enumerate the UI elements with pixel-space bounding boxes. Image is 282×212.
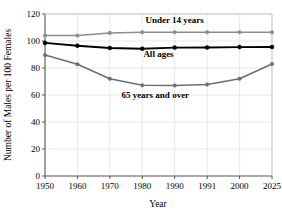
- data-point: [43, 34, 47, 38]
- y-axis-tick-label: 20: [31, 144, 41, 154]
- x-axis-tick-label: 1991: [198, 181, 216, 191]
- x-axis-tick-labels: 19501960197019801990199120002025: [36, 181, 282, 191]
- y-axis-tick-label: 120: [27, 9, 41, 19]
- x-axis-tick-label: 1990: [166, 181, 185, 191]
- x-axis-tick-label: 1980: [133, 181, 152, 191]
- series-under-14-years: [43, 30, 274, 37]
- x-axis-title: Year: [149, 199, 167, 209]
- y-axis-tick-labels: 020406080100120: [27, 9, 41, 181]
- x-axis-tick-label: 1960: [68, 181, 87, 191]
- data-point: [108, 46, 112, 50]
- data-point: [75, 44, 79, 48]
- x-axis-tick-label: 2025: [263, 181, 282, 191]
- y-axis-tick-label: 80: [31, 63, 41, 73]
- series-annotations: Under 14 yearsAll ages65 years and over: [121, 15, 204, 99]
- data-point: [140, 83, 144, 87]
- data-point: [205, 45, 209, 49]
- x-axis-tick-label: 1970: [101, 181, 120, 191]
- chart-container: 020406080100120 195019601970198019901991…: [0, 0, 282, 212]
- data-point: [238, 45, 242, 49]
- data-point: [205, 83, 209, 87]
- series-label-under14: Under 14 years: [146, 15, 205, 25]
- data-point: [205, 30, 209, 34]
- data-point: [108, 31, 112, 35]
- y-axis-tick-label: 60: [31, 90, 41, 100]
- data-point: [43, 53, 47, 57]
- data-point: [270, 45, 274, 49]
- series-label-over65: 65 years and over: [121, 90, 189, 100]
- data-point: [76, 34, 80, 38]
- data-point: [173, 84, 177, 88]
- data-point: [173, 30, 177, 34]
- series-line: [45, 55, 272, 86]
- x-axis-tick-label: 2000: [231, 181, 250, 191]
- data-point: [238, 77, 242, 81]
- y-axis-tick-label: 40: [31, 117, 41, 127]
- data-point: [43, 41, 47, 45]
- data-point: [76, 62, 80, 66]
- x-axis-tick-label: 1950: [36, 181, 55, 191]
- data-point: [238, 30, 242, 34]
- line-chart: 020406080100120 195019601970198019901991…: [0, 0, 282, 212]
- data-point: [270, 62, 274, 66]
- data-point: [108, 77, 112, 81]
- y-axis-tick-label: 0: [36, 171, 41, 181]
- y-axis-tick-label: 100: [27, 36, 41, 46]
- y-axis-title: Number of Males per 100 Females: [3, 29, 13, 161]
- series-label-allages: All ages: [143, 49, 174, 59]
- data-point: [270, 30, 274, 34]
- data-point: [140, 30, 144, 34]
